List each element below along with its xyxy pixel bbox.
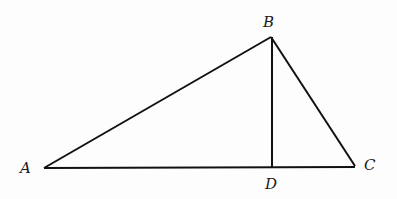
segment-bc	[271, 37, 355, 166]
triangle-diagram: A B C D	[0, 0, 397, 199]
label-vertex-a: A	[18, 159, 31, 177]
diagram-svg: A B C D	[0, 0, 397, 199]
label-vertex-b: B	[262, 13, 274, 31]
label-vertex-c: C	[364, 156, 376, 174]
segment-ab	[44, 37, 271, 168]
label-foot-d: D	[264, 175, 277, 193]
segment-ac	[44, 167, 355, 168]
